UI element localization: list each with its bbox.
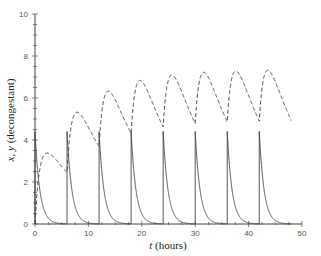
- y-tick-label: 2: [24, 178, 29, 187]
- x-tick-label: 0: [33, 229, 38, 238]
- y-tick-label: 0: [24, 220, 29, 229]
- x-tick-label: 20: [137, 229, 146, 238]
- chart: 024681001020304050 t (hours) x, y (decon…: [0, 0, 321, 256]
- y-tick-label: 10: [19, 10, 28, 19]
- series-x-solid-line: [35, 131, 291, 224]
- x-tick-label: 40: [244, 229, 253, 238]
- y-tick-label: 6: [24, 94, 29, 103]
- x-tick-label: 50: [298, 229, 307, 238]
- x-tick-label: 30: [191, 229, 200, 238]
- x-tick-label: 10: [84, 229, 93, 238]
- y-axis-label: x, y (decongestant): [4, 78, 17, 162]
- x-axis-label: t (hours): [149, 239, 187, 252]
- y-tick-label: 4: [24, 136, 29, 145]
- y-tick-label: 8: [24, 52, 29, 61]
